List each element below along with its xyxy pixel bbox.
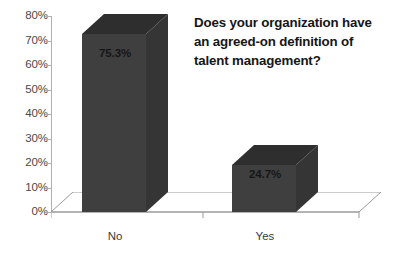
y-axis-tick-mark — [45, 188, 51, 189]
category-label-yes: Yes — [235, 231, 295, 243]
category-label-no: No — [85, 231, 145, 243]
y-axis-labels: 80% 70% 60% 50% 40% 30% 20% 10% 0% — [0, 0, 48, 256]
chart-title-line-1: Does your organization have — [194, 14, 390, 33]
y-axis-tick-label: 0% — [4, 206, 48, 218]
y-axis-tick-mark — [45, 41, 51, 42]
chart-title: Does your organization have an agreed-on… — [194, 14, 390, 71]
y-axis-tick-mark — [45, 139, 51, 140]
y-axis-tick-mark — [45, 16, 51, 17]
y-axis-tick-label: 10% — [4, 182, 48, 194]
bar-chart: 80% 70% 60% 50% 40% 30% 20% 10% 0% — [0, 0, 395, 256]
bar-no — [82, 14, 168, 214]
y-axis-tick-mark — [45, 90, 51, 91]
y-axis-tick-label: 30% — [4, 133, 48, 145]
y-axis-tick-label: 40% — [4, 108, 48, 120]
data-label-no: 75.3% — [99, 48, 131, 60]
y-axis-line — [51, 16, 52, 212]
y-axis-tick-mark — [45, 114, 51, 115]
chart-title-line-2: an agreed-on definition of — [194, 33, 390, 52]
y-axis-tick-label: 70% — [4, 35, 48, 47]
y-axis-tick-label: 20% — [4, 157, 48, 169]
y-axis-tick-label: 80% — [4, 10, 48, 22]
chart-title-line-3: talent management? — [194, 52, 390, 71]
y-axis-tick-label: 60% — [4, 59, 48, 71]
data-label-yes: 24.7% — [249, 169, 281, 181]
y-axis-tick-mark — [45, 65, 51, 66]
y-axis-tick-mark — [45, 163, 51, 164]
y-axis-tick-label: 50% — [4, 84, 48, 96]
